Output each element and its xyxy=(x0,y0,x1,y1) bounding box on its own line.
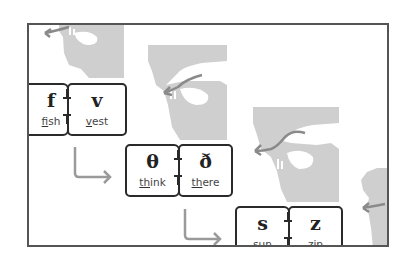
example-highlight: th xyxy=(192,176,203,188)
phoneme-cell-voiceless: θ think xyxy=(125,144,180,197)
phoneme-symbol: v xyxy=(69,89,125,111)
next-head-illustration-partial xyxy=(357,168,389,247)
example-rest: est xyxy=(92,115,108,127)
phoneme-cell-voiced: z zip xyxy=(288,206,343,247)
example-rest: ip xyxy=(313,238,323,247)
example-word: think xyxy=(127,176,178,189)
head-profile-icon xyxy=(142,45,247,145)
head-profile-icon xyxy=(29,23,124,83)
phoneme-symbol: z xyxy=(290,212,341,234)
example-word: zip xyxy=(290,238,341,247)
phoneme-symbol: s xyxy=(237,212,288,234)
phoneme-pair-th-dh: θ think ð there xyxy=(125,144,235,195)
phoneme-cell-voiced: ð there xyxy=(178,144,233,197)
phoneme-pair-s-z: s sun z zip xyxy=(235,206,345,247)
phoneme-symbol: θ xyxy=(127,150,178,172)
voicing-tick-top xyxy=(284,212,292,222)
alveolar-head-illustration xyxy=(247,107,352,207)
phoneme-cell-voiced: v vest xyxy=(67,83,127,136)
phoneme-pair-f-v: f fish v vest xyxy=(27,83,129,134)
example-highlight: th xyxy=(139,176,150,188)
example-rest: ere xyxy=(202,176,219,188)
voicing-tick-bottom xyxy=(63,114,71,124)
dental-head-illustration xyxy=(142,45,247,145)
voicing-tick-bottom xyxy=(174,175,182,185)
diagram-frame: f fish v vest θ think ð there s sun z zi… xyxy=(27,23,389,247)
example-rest: un xyxy=(259,238,272,247)
example-rest: ish xyxy=(48,115,60,127)
elbow-arrow-icon xyxy=(181,207,226,247)
voicing-tick-bottom xyxy=(284,237,292,247)
head-profile-icon xyxy=(357,168,389,247)
voicing-tick-top xyxy=(174,150,182,160)
head-profile-icon xyxy=(247,107,352,207)
phoneme-cell-voiceless: s sun xyxy=(235,206,290,247)
voicing-tick-top xyxy=(63,89,71,99)
example-word: vest xyxy=(69,115,125,128)
labiodental-head-illustration xyxy=(29,23,124,83)
example-rest: ink xyxy=(150,176,166,188)
example-word: there xyxy=(180,176,231,189)
elbow-arrow-icon xyxy=(71,145,116,185)
example-word: sun xyxy=(237,238,288,247)
phoneme-symbol: ð xyxy=(180,150,231,172)
